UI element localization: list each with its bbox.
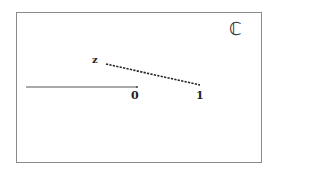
- point-label-z: z: [92, 55, 98, 65]
- z-to-one-dashed-segment: [106, 64, 200, 85]
- point-label-one: 1: [196, 90, 204, 101]
- point-label-zero: 0: [131, 90, 139, 101]
- zero-point-marker: [136, 86, 138, 88]
- complex-plane-symbol: ℂ: [229, 20, 242, 38]
